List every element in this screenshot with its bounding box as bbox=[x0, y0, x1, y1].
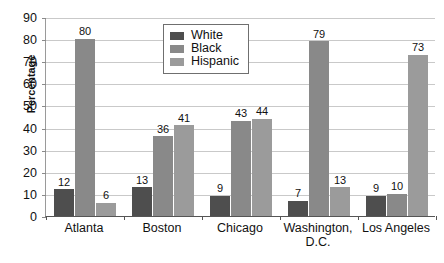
bar-value-label: 12 bbox=[58, 176, 70, 189]
y-axis-tick-label: 60 bbox=[13, 78, 37, 91]
y-axis-tick bbox=[42, 18, 46, 19]
bar-hispanic: 13 bbox=[330, 187, 350, 216]
x-axis-tick bbox=[46, 216, 47, 220]
y-axis-tick bbox=[42, 84, 46, 85]
bar-white: 9 bbox=[366, 196, 386, 216]
x-axis-category-label: Boston bbox=[123, 221, 201, 235]
bar-value-label: 7 bbox=[295, 187, 301, 200]
bar-black: 79 bbox=[309, 41, 329, 216]
legend-item: Hispanic bbox=[170, 55, 239, 68]
chart-legend: WhiteBlackHispanic bbox=[163, 24, 249, 74]
x-axis-tick bbox=[202, 216, 203, 220]
bar-group: 91073 bbox=[366, 18, 428, 216]
y-axis-tick-label: 70 bbox=[13, 56, 37, 69]
legend-label: White bbox=[191, 29, 223, 42]
bar-value-label: 43 bbox=[235, 107, 247, 120]
bar-value-label: 9 bbox=[217, 182, 223, 195]
y-axis-tick-label: 30 bbox=[13, 145, 37, 158]
bar-group: 77913 bbox=[288, 18, 350, 216]
bar-black: 10 bbox=[387, 194, 407, 216]
bar-value-label: 73 bbox=[412, 41, 424, 54]
bar-chart: Percentage 9080706050403020100 128061336… bbox=[0, 0, 444, 263]
x-axis-category-label: Washington,D.C. bbox=[279, 221, 357, 250]
bar-black: 36 bbox=[153, 136, 173, 216]
y-axis-tick-label: 80 bbox=[13, 34, 37, 47]
y-axis-tick bbox=[42, 151, 46, 152]
bar-hispanic: 41 bbox=[174, 125, 194, 216]
bar-group: 12806 bbox=[54, 18, 116, 216]
legend-swatch-hispanic bbox=[170, 58, 184, 66]
bar-value-label: 9 bbox=[373, 182, 379, 195]
y-axis-tick bbox=[42, 173, 46, 174]
x-axis-category-label: Atlanta bbox=[45, 221, 123, 235]
bar-hispanic: 44 bbox=[252, 119, 272, 216]
y-axis-tick-label: 0 bbox=[13, 211, 37, 224]
bar-value-label: 10 bbox=[391, 180, 403, 193]
bar-hispanic: 6 bbox=[96, 203, 116, 216]
bar-black: 43 bbox=[231, 121, 251, 216]
bar-white: 13 bbox=[132, 187, 152, 216]
bar-hispanic: 73 bbox=[408, 55, 428, 216]
bar-white: 12 bbox=[54, 189, 74, 216]
bar-value-label: 44 bbox=[256, 105, 268, 118]
legend-label: Hispanic bbox=[191, 55, 239, 68]
y-axis-tick bbox=[42, 106, 46, 107]
bar-value-label: 41 bbox=[178, 112, 190, 125]
x-axis-tick bbox=[280, 216, 281, 220]
legend-item: White bbox=[170, 29, 239, 42]
y-axis-tick-label: 20 bbox=[13, 167, 37, 180]
legend-item: Black bbox=[170, 42, 239, 55]
y-axis-tick bbox=[42, 40, 46, 41]
bar-white: 7 bbox=[288, 201, 308, 216]
y-axis-tick-label: 40 bbox=[13, 123, 37, 136]
x-axis-category-label: Los Angeles bbox=[357, 221, 435, 235]
y-axis-tick bbox=[42, 195, 46, 196]
bar-value-label: 36 bbox=[157, 123, 169, 136]
y-axis-tick-label: 10 bbox=[13, 189, 37, 202]
bar-black: 80 bbox=[75, 39, 95, 216]
legend-swatch-white bbox=[170, 32, 184, 40]
x-axis-tick bbox=[124, 216, 125, 220]
bar-value-label: 80 bbox=[79, 25, 91, 38]
x-axis-tick bbox=[436, 216, 437, 220]
x-axis-tick bbox=[358, 216, 359, 220]
y-axis-tick bbox=[42, 129, 46, 130]
legend-swatch-black bbox=[170, 45, 184, 53]
y-axis-tick bbox=[42, 62, 46, 63]
bar-value-label: 13 bbox=[136, 174, 148, 187]
x-axis-category-label: Chicago bbox=[201, 221, 279, 235]
legend-label: Black bbox=[191, 42, 222, 55]
bar-white: 9 bbox=[210, 196, 230, 216]
y-axis-tick-label: 90 bbox=[13, 12, 37, 25]
bar-value-label: 6 bbox=[103, 189, 109, 202]
bar-value-label: 13 bbox=[334, 174, 346, 187]
y-axis-tick-label: 50 bbox=[13, 100, 37, 113]
bar-value-label: 79 bbox=[313, 28, 325, 41]
